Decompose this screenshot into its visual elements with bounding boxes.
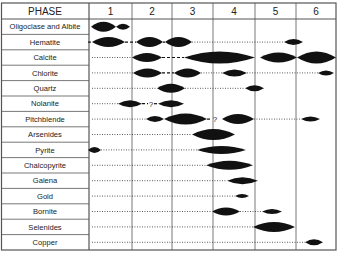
abundance-lens (301, 117, 320, 122)
mineral-label-hematite: Hematite (30, 38, 60, 47)
abundance-lens (245, 85, 264, 91)
question-mark: ? (149, 100, 154, 109)
mineral-row-pitchblende: ? (92, 114, 320, 125)
mineral-row-hematite (88, 37, 303, 47)
mineral-label-pyrite: Pyrite (35, 146, 54, 155)
mineral-label-selenides: Selenides (28, 223, 62, 232)
phase-header: PHASE 123456 (28, 6, 319, 17)
abundance-lens (305, 239, 323, 245)
phase-header-label: PHASE (28, 6, 62, 17)
phase-number-2: 2 (149, 6, 155, 17)
abundance-lens (116, 24, 130, 30)
abundance-lens (132, 53, 162, 62)
mineral-row-arsenides (92, 129, 235, 140)
mineral-row-calcite (92, 52, 336, 64)
mineral-label-chalcopyrite: Chalcopyrite (24, 161, 66, 170)
abundance-lens (164, 114, 207, 125)
mineral-label-oligoclase-and-albite: Oligoclase and Albite (10, 22, 81, 31)
phase-number-4: 4 (231, 6, 237, 17)
abundance-lens (118, 100, 142, 107)
mineral-row-oligoclase-and-albite (91, 22, 130, 32)
abundance-lens (235, 194, 249, 198)
abundance-lens (157, 84, 185, 93)
phase-number-3: 3 (190, 6, 196, 17)
phase-number-1: 1 (108, 6, 114, 17)
mineral-label-calcite: Calcite (33, 53, 56, 62)
abundance-lens (284, 39, 303, 45)
abundance-lens (136, 37, 163, 47)
mineral-label-nolanite: Nolanite (31, 99, 59, 108)
abundance-lens (222, 114, 254, 124)
abundance-lens (158, 100, 184, 107)
abundance-lens (192, 129, 235, 140)
abundance-lens (253, 222, 295, 232)
mineral-label-pitchblende: Pitchblende (25, 115, 65, 124)
mineral-row-pyrite (88, 146, 246, 154)
mineral-labels: Oligoclase and AlbiteHematiteCalciteChlo… (10, 22, 81, 247)
question-mark: ? (270, 207, 275, 216)
abundance-lens (184, 52, 255, 64)
mineral-label-arsenides: Arsenides (28, 130, 62, 139)
abundance-lens (88, 147, 101, 153)
abundance-lens (318, 70, 334, 75)
phase-number-5: 5 (273, 6, 279, 17)
question-mark: ? (213, 115, 218, 124)
abundance-lens (174, 68, 201, 77)
abundance-lens (227, 177, 258, 184)
mineral-ranges: ??? (88, 22, 336, 246)
mineral-label-copper: Copper (33, 238, 58, 247)
mineral-row-selenides (92, 222, 295, 232)
mineral-row-nolanite: ? (92, 100, 184, 109)
mineral-label-chlorite: Chlorite (32, 69, 58, 78)
mineral-row-chalcopyrite (92, 161, 253, 170)
abundance-lens (197, 146, 246, 154)
mineral-row-galena (92, 177, 258, 184)
paragenetic-diagram: PHASE 123456 Oligoclase and AlbiteHemati… (0, 0, 339, 256)
mineral-row-gold (92, 194, 249, 198)
abundance-lens (297, 52, 336, 64)
abundance-lens (165, 37, 192, 47)
mineral-row-copper (92, 239, 323, 245)
mineral-label-gold: Gold (37, 192, 53, 201)
abundance-lens (92, 37, 125, 47)
abundance-lens (146, 116, 164, 122)
abundance-lens (260, 53, 297, 63)
abundance-lens (222, 69, 247, 76)
abundance-lens (212, 208, 240, 216)
abundance-lens (91, 22, 116, 32)
mineral-row-bornite: ? (92, 207, 282, 216)
mineral-label-galena: Galena (33, 176, 58, 185)
mineral-row-quartz (92, 84, 264, 93)
phase-number-6: 6 (313, 6, 319, 17)
abundance-lens (133, 68, 162, 77)
mineral-label-quartz: Quartz (34, 84, 57, 93)
mineral-label-bornite: Bornite (33, 207, 57, 216)
